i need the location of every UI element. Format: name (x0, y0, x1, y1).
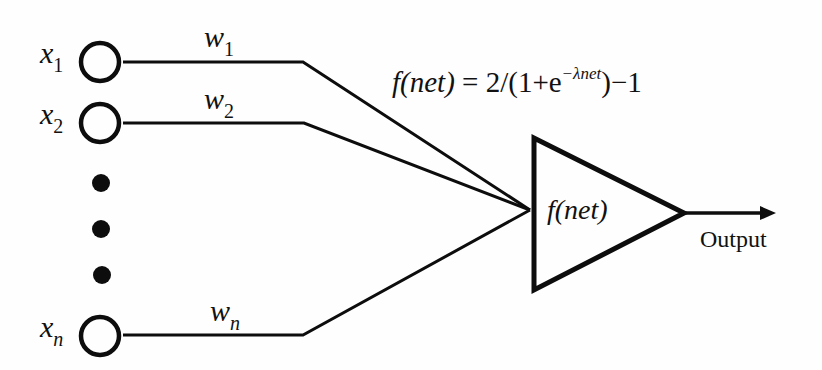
formula-tail: )−1 (601, 66, 642, 98)
arrow-head-icon (760, 206, 776, 220)
formula-lhs: f(net) (392, 66, 455, 98)
input-symbol: x (40, 97, 53, 130)
connection-2 (123, 123, 530, 210)
weight-subscript: n (230, 312, 240, 334)
formula-body: = 2/(1+e (455, 66, 562, 98)
neuron-label: f(net) (547, 196, 608, 224)
weight-subscript: 2 (224, 100, 234, 122)
input-subscript: n (53, 328, 63, 350)
formula-exponent: −λnet (562, 64, 602, 83)
weight-subscript: 1 (224, 38, 234, 60)
activation-formula: f(net) = 2/(1+e−λnet)−1 (392, 68, 642, 97)
diagram-graphics (0, 0, 822, 370)
input-label-2: x2 (40, 99, 63, 129)
input-node-n (81, 317, 119, 355)
output-label: Output (700, 227, 767, 251)
input-node-1 (81, 43, 119, 81)
input-label-n: xn (40, 312, 63, 342)
weight-label-1: w1 (204, 22, 234, 52)
weight-symbol: w (204, 82, 224, 115)
input-subscript: 2 (53, 115, 63, 137)
weight-symbol: w (210, 294, 230, 327)
input-symbol: x (40, 36, 53, 69)
neuron-diagram: x1 x2 xn w1 w2 wn f(net) = 2/(1+e−λnet)−… (0, 0, 822, 370)
input-subscript: 1 (53, 54, 63, 76)
weight-symbol: w (204, 20, 224, 53)
ellipsis-dot (93, 266, 111, 284)
input-node-2 (81, 104, 119, 142)
weight-label-n: wn (210, 296, 240, 326)
input-symbol: x (40, 310, 53, 343)
input-label-1: x1 (40, 38, 63, 68)
connection-n (123, 210, 530, 335)
weight-label-2: w2 (204, 84, 234, 114)
ellipsis-dot (92, 174, 110, 192)
ellipsis-dot (92, 220, 110, 238)
